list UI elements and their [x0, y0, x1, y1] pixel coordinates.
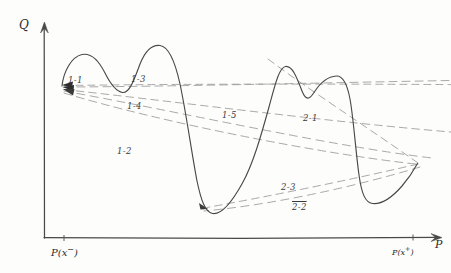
dashed-ray-2-3 — [207, 164, 418, 208]
dashed-ray-2-2 — [204, 167, 420, 211]
dashed-ray-2-1 — [268, 59, 418, 163]
dashed-ray-1-1 — [64, 84, 451, 85]
dashed-rays-group — [64, 59, 451, 211]
main-curve-group — [62, 45, 418, 213]
sketch-figure: Q P P(x−) P(x+) 1-11-31-41-52-11-22-32-2 — [0, 0, 451, 273]
main-curve — [62, 45, 418, 213]
dashed-ray-1-5 — [64, 91, 432, 158]
axes-group — [41, 22, 443, 242]
dashed-ray-1-4 — [64, 90, 451, 133]
x-axis-line — [44, 237, 436, 238]
dashed-ray-1-2 — [64, 93, 420, 165]
sketch-drawing-surface — [0, 0, 451, 273]
